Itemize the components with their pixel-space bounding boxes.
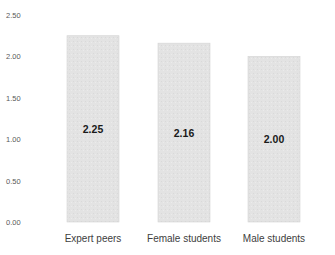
y-tick-label: 2.00 bbox=[6, 52, 21, 61]
x-category-label: Male students bbox=[243, 233, 305, 244]
y-axis: 0.000.501.001.502.002.50 bbox=[6, 11, 21, 227]
data-label: 2.00 bbox=[264, 133, 285, 145]
bars-group: 2.252.162.00 bbox=[67, 36, 300, 222]
x-axis: Expert peersFemale studentsMale students bbox=[65, 233, 305, 244]
bar-chart: 0.000.501.001.502.002.50 2.252.162.00 Ex… bbox=[0, 0, 335, 255]
data-label: 2.16 bbox=[174, 127, 195, 139]
data-label: 2.25 bbox=[83, 123, 104, 135]
y-tick-label: 1.00 bbox=[6, 135, 21, 144]
chart-canvas: 0.000.501.001.502.002.50 2.252.162.00 Ex… bbox=[0, 0, 335, 255]
y-tick-label: 2.50 bbox=[6, 11, 21, 20]
x-category-label: Female students bbox=[147, 233, 221, 244]
y-tick-label: 1.50 bbox=[6, 94, 21, 103]
x-category-label: Expert peers bbox=[65, 233, 122, 244]
y-tick-label: 0.50 bbox=[6, 177, 21, 186]
y-tick-label: 0.00 bbox=[6, 218, 21, 227]
